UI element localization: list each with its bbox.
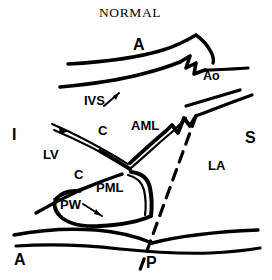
pml-right-limb (131, 172, 152, 216)
lv-la-divider-dashed-line (140, 116, 196, 270)
label-anterior-top: A (133, 37, 145, 53)
label-chordae-upper: C (98, 124, 107, 137)
ivs-arrow (104, 93, 119, 106)
pw-arrow (83, 204, 102, 216)
page-title: NORMAL (99, 6, 161, 20)
label-lv: LV (43, 148, 59, 161)
chordae-upper-insertion (100, 151, 130, 169)
aortic-valve-cusp-upper (180, 56, 205, 74)
label-inferior-axis: I (12, 127, 16, 143)
posterior-wall-upper-line-right (152, 230, 258, 243)
label-anterior-axis: A (14, 252, 26, 268)
label-pw: PW (60, 198, 81, 211)
label-aorta: Ao (203, 70, 220, 83)
label-ivs: IVS (84, 94, 105, 107)
posterior-wall-upper-line (14, 229, 152, 243)
ivs-upper-border (68, 35, 196, 64)
label-chordae-lower: C (74, 168, 83, 181)
label-posterior-axis: P (146, 255, 157, 271)
aortic-root-inner-wall (196, 95, 252, 116)
label-aml: AML (131, 119, 159, 132)
label-superior-axis: S (245, 130, 256, 146)
pml-right-limb-inner (128, 175, 146, 215)
label-la: LA (208, 159, 225, 172)
posterior-wall-lower-line (16, 245, 260, 253)
ivs-lower-border (60, 62, 180, 87)
normal-heart-diagram: NORMAL A Ao IVS AML C I LV S LA C PML PW… (0, 0, 272, 280)
aortic-anterior-wall (196, 35, 213, 63)
label-pml: PML (96, 181, 123, 194)
